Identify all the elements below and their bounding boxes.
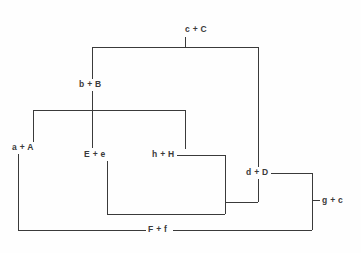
node-label-h-plus-H: h + H xyxy=(150,149,177,159)
edge-Ee-lower-loop xyxy=(107,161,225,214)
node-label-c-plus-C: c + C xyxy=(183,24,209,34)
node-label-E-plus-e: E + e xyxy=(82,149,108,159)
node-label-g-plus-c: g + c xyxy=(320,195,345,205)
node-label-a-plus-A: a + A xyxy=(10,142,36,152)
node-label-d-plus-D: d + D xyxy=(244,167,271,177)
block-diagram: c + C b + B a + A E + e h + H d + D g + … xyxy=(0,0,361,253)
edge-hH-out-down xyxy=(177,155,225,214)
edge-dD-out-gc-spine xyxy=(271,173,312,230)
node-label-F-plus-f: F + f xyxy=(146,224,169,234)
node-label-b-plus-B: b + B xyxy=(77,79,104,89)
diagram-edges-layer xyxy=(0,0,361,253)
